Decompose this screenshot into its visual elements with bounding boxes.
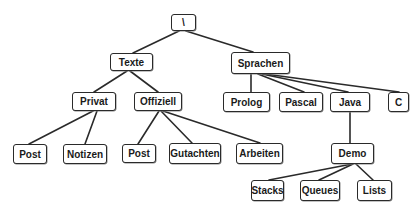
node-label: Java: [339, 97, 361, 108]
directory-tree-diagram: \TexteSprachenPrivatOffiziellPrologPasca…: [0, 0, 420, 214]
edge-offiziell-post2: [138, 111, 159, 144]
node-lists: Lists: [357, 180, 392, 201]
node-label: Gutachten: [170, 148, 219, 159]
node-post2: Post: [122, 144, 156, 163]
node-offiziell: Offiziell: [134, 92, 182, 111]
node-texte: Texte: [110, 53, 153, 71]
node-c: C: [388, 92, 409, 112]
node-label: Post: [128, 148, 150, 159]
node-root: \: [171, 14, 196, 31]
node-label: C: [395, 97, 402, 108]
node-prolog: Prolog: [223, 92, 270, 112]
node-label: \: [182, 17, 185, 28]
edge-privat-post1: [29, 111, 93, 144]
edge-root-sprachen: [186, 31, 253, 52]
node-label: Queues: [302, 185, 339, 196]
node-pascal: Pascal: [279, 92, 323, 112]
edge-texte-privat: [94, 71, 127, 92]
node-privat: Privat: [72, 92, 116, 111]
node-gutachten: Gutachten: [169, 143, 221, 164]
node-stacks: Stacks: [251, 180, 284, 201]
node-notizen: Notizen: [63, 144, 107, 164]
node-label: Stacks: [251, 185, 283, 196]
node-label: Arbeiten: [239, 148, 280, 159]
node-java: Java: [330, 92, 370, 112]
node-label: Pascal: [285, 97, 317, 108]
node-label: Sprachen: [238, 58, 284, 69]
node-label: Post: [19, 149, 41, 160]
node-label: Prolog: [231, 97, 263, 108]
node-label: Notizen: [67, 149, 103, 160]
edge-demo-stacks: [269, 164, 352, 180]
node-post1: Post: [13, 144, 47, 164]
node-demo: Demo: [331, 143, 374, 164]
node-label: Lists: [363, 185, 386, 196]
node-label: Texte: [119, 57, 144, 68]
node-label: Demo: [339, 148, 367, 159]
node-arbeiten: Arbeiten: [236, 143, 283, 164]
edge-root-texte: [133, 31, 179, 53]
edge-texte-offiziell: [130, 71, 158, 92]
node-sprachen: Sprachen: [231, 52, 290, 74]
edge-demo-lists: [356, 164, 373, 180]
node-label: Privat: [80, 96, 108, 107]
edge-privat-notizen: [85, 111, 97, 144]
node-queues: Queues: [300, 180, 340, 201]
node-label: Offiziell: [140, 96, 176, 107]
